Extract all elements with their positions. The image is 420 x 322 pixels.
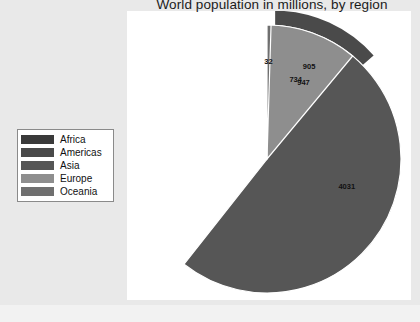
legend-label-asia: Asia [60,160,79,171]
legend-item-africa: Africa [21,133,110,146]
pie-label-americas: 905 [303,62,316,71]
legend-label-africa: Africa [60,134,86,145]
legend-swatch-africa [21,135,54,144]
pie-label-oceania: 32 [264,57,272,66]
chart-figure: World population in millions, by region … [0,0,420,322]
legend-item-asia: Asia [21,159,110,172]
legend-item-americas: Americas [21,146,110,159]
legend-swatch-europe [21,174,54,183]
legend-swatch-asia [21,161,54,170]
pie-slices [184,11,401,293]
pie-chart: 947905403173432 [127,11,411,300]
legend-label-oceania: Oceania [60,186,97,197]
legend-item-oceania: Oceania [21,185,110,198]
legend-swatch-americas [21,148,54,157]
legend-label-americas: Americas [60,147,102,158]
paper-edge [0,305,420,322]
legend-item-europe: Europe [21,172,110,185]
legend-swatch-oceania [21,187,54,196]
chart-legend: Africa Americas Asia Europe Oceania [17,129,114,202]
pie-label-asia: 4031 [338,182,355,191]
pie-label-europe: 734 [289,75,302,84]
legend-label-europe: Europe [60,173,92,184]
pie-svg: 947905403173432 [127,11,411,300]
